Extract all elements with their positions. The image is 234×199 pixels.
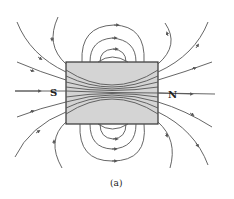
bar-magnet-field-diagram: S N (a) <box>0 0 234 199</box>
field-lines <box>15 17 215 168</box>
north-pole-label: N <box>168 89 177 100</box>
figure-caption: (a) <box>110 178 122 188</box>
south-pole-label: S <box>50 87 57 98</box>
